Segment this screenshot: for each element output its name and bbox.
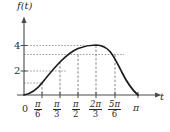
function-graph-figure: f(t) t 4 2 0 π 6 π 3 π 2 2π 3 5π 6 xyxy=(0,0,170,132)
x-tick-label-pi-over-6: π 6 xyxy=(34,100,42,120)
x-axis xyxy=(17,92,162,98)
y-tick-label-2: 2 xyxy=(14,66,20,76)
fraction-5pi-over-6: 5π 6 xyxy=(108,100,121,119)
x-tick-label-pi-over-3: π 3 xyxy=(53,100,61,120)
x-tick-label-pi-over-2: π 2 xyxy=(72,100,80,120)
fraction-pi-over-2: π 2 xyxy=(72,100,80,119)
fraction-denominator: 6 xyxy=(108,110,121,119)
y-axis xyxy=(21,17,28,96)
x-tick-label-2pi-over-3: 2π 3 xyxy=(89,100,102,120)
fraction-pi-over-6: π 6 xyxy=(34,100,42,119)
fraction-denominator: 3 xyxy=(53,110,61,119)
fraction-denominator: 2 xyxy=(72,110,80,119)
x-tick-label-origin: 0 xyxy=(22,104,28,114)
fraction-2pi-over-3: 2π 3 xyxy=(89,100,102,119)
x-tick-label-5pi-over-6: 5π 6 xyxy=(108,100,121,120)
fraction-denominator: 3 xyxy=(89,110,102,119)
fraction-denominator: 6 xyxy=(34,110,42,119)
x-axis-label: t xyxy=(160,92,164,102)
x-tick-label-pi: π xyxy=(133,103,139,113)
fraction-pi-over-3: π 3 xyxy=(53,100,61,119)
y-axis-arrow xyxy=(21,17,26,24)
y-axis-label: f(t) xyxy=(17,1,33,11)
y-tick-label-4: 4 xyxy=(14,41,20,51)
function-curve xyxy=(24,45,138,95)
